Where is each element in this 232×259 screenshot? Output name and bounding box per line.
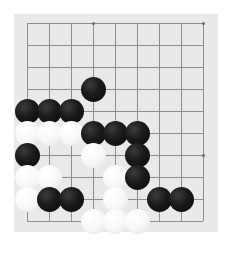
black-stone[interactable] [169, 187, 194, 212]
black-stone[interactable] [147, 187, 172, 212]
white-stone[interactable] [125, 209, 150, 234]
stone-layer[interactable] [0, 0, 232, 259]
black-stone[interactable] [125, 165, 150, 190]
black-stone[interactable] [125, 143, 150, 168]
white-stone[interactable] [37, 165, 62, 190]
black-stone[interactable] [15, 143, 40, 168]
black-stone[interactable] [81, 77, 106, 102]
white-stone[interactable] [103, 165, 128, 190]
white-stone[interactable] [15, 121, 40, 146]
white-stone[interactable] [15, 187, 40, 212]
go-board-app [0, 0, 232, 259]
white-stone[interactable] [37, 121, 62, 146]
white-stone[interactable] [103, 187, 128, 212]
white-stone[interactable] [81, 143, 106, 168]
black-stone[interactable] [59, 99, 84, 124]
white-stone[interactable] [15, 165, 40, 190]
black-stone[interactable] [103, 121, 128, 146]
black-stone[interactable] [125, 121, 150, 146]
white-stone[interactable] [81, 209, 106, 234]
black-stone[interactable] [59, 187, 84, 212]
black-stone[interactable] [37, 99, 62, 124]
black-stone[interactable] [37, 187, 62, 212]
white-stone[interactable] [103, 209, 128, 234]
black-stone[interactable] [81, 121, 106, 146]
black-stone[interactable] [15, 99, 40, 124]
white-stone[interactable] [59, 121, 84, 146]
